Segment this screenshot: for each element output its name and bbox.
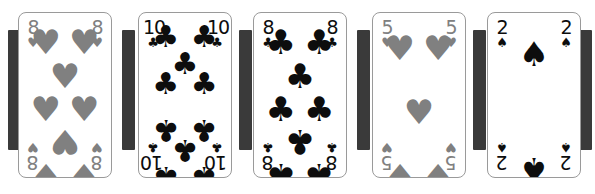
card-pip-hearts-icon: ♥ — [421, 159, 455, 178]
card-pip-hearts-icon: ♥ — [29, 92, 63, 126]
card-pip-hearts-icon: ♥ — [48, 125, 82, 159]
playing-card[interactable]: 5♥5♥5♥5♥♥♥♥♥♥ — [372, 12, 466, 178]
card-pip-clubs-icon: ♣ — [149, 69, 183, 99]
card-pip-clubs-icon: ♣ — [264, 92, 298, 126]
card-pip-hearts-icon: ♥ — [383, 31, 417, 65]
playing-card[interactable]: 8♥8♥8♥8♥♥♥♥♥♥♥♥♥ — [18, 12, 112, 178]
card-pip-hearts-icon: ♥ — [29, 25, 63, 59]
playing-card[interactable]: 10♣10♣10♣10♣♣♣♣♣♣♣♣♣♣♣ — [138, 12, 232, 178]
card-pip-clubs-icon: ♣ — [283, 125, 317, 159]
card-pip-hearts-icon: ♥ — [29, 159, 63, 178]
card-pip-hearts-icon: ♥ — [67, 159, 101, 178]
card-pip-hearts-icon: ♥ — [421, 31, 455, 65]
card-pip-clubs-icon: ♣ — [264, 159, 298, 178]
card-pip-clubs-icon: ♣ — [302, 92, 336, 126]
card-pip-field: ♥♥♥♥♥ — [389, 19, 449, 171]
card-pip-clubs-icon: ♣ — [264, 25, 298, 59]
card-pip-field: ♠♠ — [504, 19, 564, 171]
card-pip-field: ♥♥♥♥♥♥♥♥ — [35, 19, 95, 171]
background-card-edge — [239, 30, 252, 150]
card-pip-hearts-icon: ♥ — [48, 59, 82, 93]
background-card-edge — [473, 30, 486, 150]
card-pip-clubs-icon: ♣ — [149, 162, 183, 178]
background-card-edge — [122, 30, 135, 150]
card-pip-hearts-icon: ♥ — [383, 159, 417, 178]
background-card-edge — [357, 30, 370, 150]
card-pip-hearts-icon: ♥ — [402, 95, 436, 129]
playing-card[interactable]: 8♣8♣8♣8♣♣♣♣♣♣♣♣♣ — [253, 12, 347, 178]
card-pip-hearts-icon: ♥ — [67, 92, 101, 126]
card-pip-spades-icon: ♠ — [517, 153, 551, 178]
card-pip-field: ♣♣♣♣♣♣♣♣♣♣ — [155, 19, 215, 171]
card-hand-scene: 8♥8♥8♥8♥♥♥♥♥♥♥♥♥10♣10♣10♣10♣♣♣♣♣♣♣♣♣♣♣8♣… — [0, 0, 595, 194]
playing-card[interactable]: 2♠2♠2♠2♠♠♠ — [487, 12, 581, 178]
card-pip-spades-icon: ♠ — [517, 37, 551, 71]
card-pip-clubs-icon: ♣ — [187, 162, 221, 178]
card-pip-clubs-icon: ♣ — [283, 59, 317, 93]
card-pip-clubs-icon: ♣ — [302, 159, 336, 178]
card-pip-field: ♣♣♣♣♣♣♣♣ — [270, 19, 330, 171]
card-pip-hearts-icon: ♥ — [67, 25, 101, 59]
card-pip-clubs-icon: ♣ — [187, 69, 221, 99]
card-pip-clubs-icon: ♣ — [302, 25, 336, 59]
